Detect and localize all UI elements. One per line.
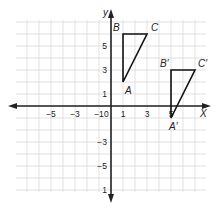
x-tick-labels: −5−3−10135 <box>46 109 173 119</box>
x-tick-label: 0 <box>104 109 109 119</box>
x-tick-label: −1 <box>94 109 104 119</box>
vertex-label: C′ <box>198 58 208 69</box>
y-axis-up-arrow-icon <box>108 9 114 18</box>
y-tick-label: 1 <box>102 89 107 99</box>
axes: X y <box>8 7 211 203</box>
y-tick-label: 3 <box>102 65 107 75</box>
x-tick-label: −3 <box>70 109 80 119</box>
coordinate-plane: X y −5−3−10135 531−3−51 ABCA′B′C′ <box>0 0 219 212</box>
y-axis-label: y <box>102 7 109 18</box>
vertex-label: A′ <box>168 121 179 132</box>
triangle-abc: ABC <box>113 22 159 96</box>
triangle-abc-prime: A′B′C′ <box>160 58 208 132</box>
y-tick-label: −3 <box>97 137 107 147</box>
x-tick-label: 3 <box>145 109 150 119</box>
y-tick-label: −5 <box>97 161 107 171</box>
x-tick-label: −5 <box>46 109 56 119</box>
x-axis-label: X <box>199 108 207 119</box>
triangles: ABCA′B′C′ <box>113 22 208 132</box>
y-axis-down-arrow-icon <box>108 194 114 203</box>
x-tick-label: 1 <box>121 109 126 119</box>
vertex-label: A <box>124 85 132 96</box>
y-tick-label: 5 <box>102 41 107 51</box>
vertex-label: C <box>151 22 159 33</box>
vertex-label: B′ <box>160 58 170 69</box>
y-tick-label: 1 <box>102 185 107 195</box>
vertex-label: B <box>113 22 120 33</box>
x-axis-left-arrow-icon <box>8 103 17 109</box>
